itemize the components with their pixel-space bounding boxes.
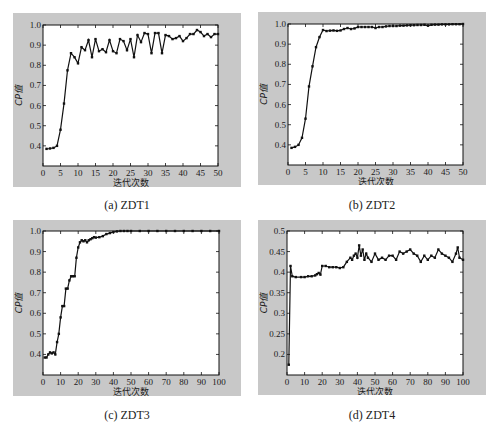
chart-panel-zdt4: 01020304050607080901000.20.250.30.350.40… [258, 220, 486, 395]
data-point-marker [178, 35, 180, 37]
x-tick-label: 100 [456, 377, 470, 387]
data-point-marker [363, 259, 365, 261]
x-axis-label: 迭代次数 [113, 177, 149, 187]
data-point-marker [370, 261, 372, 263]
data-point-marker [101, 48, 103, 50]
data-point-marker [199, 31, 201, 33]
data-point-marker [332, 266, 334, 268]
data-point-marker [349, 257, 351, 259]
y-axis-label: CP值 [259, 291, 269, 314]
data-point-marker [321, 265, 323, 267]
data-point-marker [165, 230, 167, 232]
data-point-marker [70, 52, 72, 54]
data-point-marker [140, 41, 142, 43]
data-point-marker [437, 23, 439, 25]
data-point-marker [185, 37, 187, 39]
x-tick-label: 40 [109, 377, 119, 387]
data-point-marker [336, 30, 338, 32]
data-point-marker [423, 254, 425, 256]
data-point-marker [409, 24, 411, 26]
x-tick-label: 50 [459, 167, 469, 177]
data-point-marker [301, 137, 303, 139]
line-chart-zdt1: 051015202530354045500.40.50.60.70.80.91.… [13, 13, 241, 187]
caption-zdt1: (a) ZDT1 [13, 198, 241, 213]
y-tick-label: 0.25 [269, 329, 285, 339]
y-tick-label: 0.7 [30, 80, 42, 90]
y-tick-label: 0.4 [30, 349, 42, 359]
data-point-marker [210, 36, 212, 38]
y-tick-label: 1.0 [30, 20, 42, 30]
data-point-marker [420, 261, 422, 263]
x-tick-label: 30 [144, 168, 154, 178]
data-point-marker [63, 102, 65, 104]
data-point-marker [451, 23, 453, 25]
y-tick-label: 0.4 [30, 141, 42, 151]
data-point-marker [133, 56, 135, 58]
data-point-marker [58, 333, 60, 335]
x-tick-label: 70 [162, 377, 172, 387]
data-point-marker [398, 250, 400, 252]
data-point-marker [346, 27, 348, 29]
data-point-marker [130, 230, 132, 232]
x-tick-label: 30 [91, 377, 101, 387]
y-tick-label: 0.9 [30, 40, 42, 50]
data-point-marker [297, 144, 299, 146]
line-chart-zdt4: 01020304050607080901000.20.250.30.350.40… [258, 220, 486, 395]
data-point-marker [455, 23, 457, 25]
data-point-marker [73, 275, 75, 277]
y-tick-label: 0.6 [275, 100, 287, 110]
x-tick-label: 10 [319, 167, 329, 177]
data-point-marker [95, 236, 97, 238]
data-point-marker [98, 50, 100, 52]
data-point-marker [52, 351, 54, 353]
chart-panel-zdt1: 051015202530354045500.40.50.60.70.80.91.… [13, 13, 241, 187]
data-point-marker [329, 29, 331, 31]
data-point-marker [388, 25, 390, 27]
data-point-marker [462, 23, 464, 25]
y-tick-label: 0.9 [30, 247, 42, 257]
data-point-marker [339, 29, 341, 31]
data-point-marker [77, 62, 79, 64]
y-tick-label: 1.0 [275, 19, 287, 29]
data-point-marker [358, 244, 360, 246]
data-point-marker [395, 25, 397, 27]
data-point-marker [288, 364, 290, 366]
plot-area [43, 231, 219, 375]
data-point-marker [342, 266, 344, 268]
y-tick-label: 0.7 [275, 79, 287, 89]
data-point-marker [409, 248, 411, 250]
x-tick-label: 50 [214, 168, 224, 178]
data-point-marker [154, 32, 156, 34]
data-point-marker [295, 276, 297, 278]
data-point-marker [405, 250, 407, 252]
x-tick-label: 90 [197, 377, 207, 387]
data-point-marker [374, 27, 376, 29]
data-point-marker [395, 259, 397, 261]
x-tick-label: 20 [74, 377, 84, 387]
data-point-marker [77, 246, 79, 248]
data-point-marker [182, 40, 184, 42]
y-tick-label: 0.8 [275, 59, 287, 69]
x-tick-label: 50 [127, 377, 137, 387]
data-point-marker [73, 56, 75, 58]
data-point-marker [381, 26, 383, 28]
data-point-marker [294, 146, 296, 148]
x-tick-label: 80 [179, 377, 189, 387]
y-tick-label: 0.5 [30, 329, 42, 339]
data-point-marker [406, 24, 408, 26]
x-tick-label: 80 [423, 377, 433, 387]
data-point-marker [448, 257, 450, 259]
data-point-marker [119, 230, 121, 232]
data-point-marker [174, 230, 176, 232]
data-point-marker [354, 252, 356, 254]
data-point-marker [105, 233, 107, 235]
data-point-marker [84, 239, 86, 241]
data-point-marker [427, 259, 429, 261]
y-tick-label: 0.2 [274, 349, 285, 359]
data-point-marker [56, 145, 58, 147]
data-point-marker [218, 230, 220, 232]
chart-panel-zdt2: 051015202530354045500.40.50.60.70.80.91.… [258, 12, 486, 185]
data-point-marker [143, 32, 145, 34]
x-axis-label: 迭代次数 [113, 386, 149, 396]
x-axis-label: 迭代次数 [357, 386, 393, 395]
